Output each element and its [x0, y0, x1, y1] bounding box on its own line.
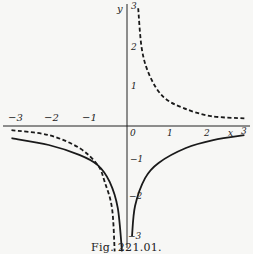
solid-lower-right-curve	[132, 135, 244, 236]
y-tick-1: 1	[131, 82, 137, 91]
plot-area	[0, 0, 253, 254]
y-tick-2: 2	[131, 43, 137, 52]
x-tick-3: 3	[241, 127, 247, 136]
y-tick-3: 3	[131, 2, 137, 11]
x-tick-0: 0	[130, 129, 136, 138]
x-tick-m1: −1	[82, 113, 97, 123]
x-tick-m3: −3	[8, 113, 23, 123]
figure: y 3 2 1 −1 −2 −3 −3 −2 −1 0 1 2 x 3 Fig.…	[0, 0, 253, 254]
x-tick-1: 1	[167, 129, 173, 138]
y-tick-m1: −1	[130, 155, 143, 164]
dashed-upper-right-curve	[138, 8, 244, 118]
y-tick-m3: −3	[128, 232, 141, 241]
solid-lower-left-curve	[12, 138, 123, 251]
x-tick-2: 2	[204, 129, 210, 138]
y-tick-m2: −2	[129, 192, 142, 201]
figure-caption: Fig. 221.01.	[0, 241, 253, 254]
y-axis-label: y	[117, 4, 123, 14]
x-axis-label: x	[228, 129, 233, 138]
x-tick-m2: −2	[44, 113, 59, 123]
